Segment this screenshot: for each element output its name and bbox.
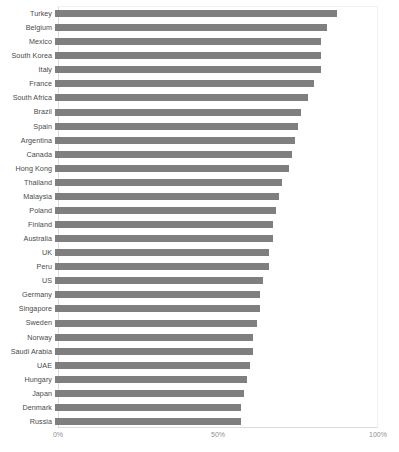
bar-track — [55, 90, 375, 105]
bar-category-label: Spain — [0, 123, 55, 130]
bar-track — [55, 330, 375, 345]
bar — [55, 291, 260, 298]
bar — [55, 418, 241, 425]
bar-category-label: Turkey — [0, 10, 55, 17]
bar-category-label: Norway — [0, 334, 55, 341]
bar-row: South Africa — [0, 90, 399, 105]
bar — [55, 334, 253, 341]
bar-category-label: Belgium — [0, 24, 55, 31]
bar — [55, 165, 289, 172]
bar-row: Norway — [0, 330, 399, 345]
bar-rows: TurkeyBelgiumMexicoSouth KoreaItalyFranc… — [0, 6, 399, 428]
bar — [55, 277, 263, 284]
bar — [55, 207, 276, 214]
bar-row: Australia — [0, 231, 399, 246]
bar-track — [55, 76, 375, 91]
x-axis-tick-label: 100% — [369, 431, 387, 438]
bar-track — [55, 203, 375, 218]
bar — [55, 137, 295, 144]
bar — [55, 305, 260, 312]
bar-row: Poland — [0, 203, 399, 218]
bar-row: UAE — [0, 358, 399, 373]
bar — [55, 179, 282, 186]
bar-row: France — [0, 76, 399, 91]
bar-row: Canada — [0, 147, 399, 162]
bar-track — [55, 231, 375, 246]
bar-row: Belgium — [0, 20, 399, 35]
bar-category-label: Denmark — [0, 404, 55, 411]
bar-row: Turkey — [0, 6, 399, 21]
bar-row: Argentina — [0, 133, 399, 148]
x-axis-tick-label: 0% — [53, 431, 63, 438]
bar — [55, 263, 269, 270]
bar-category-label: Japan — [0, 390, 55, 397]
bar-category-label: Saudi Arabia — [0, 348, 55, 355]
bar-track — [55, 414, 375, 429]
bar-category-label: UK — [0, 249, 55, 256]
bar-row: Spain — [0, 119, 399, 134]
bar — [55, 80, 314, 87]
bar-track — [55, 287, 375, 302]
bar-row: Brazil — [0, 104, 399, 119]
bar-category-label: Canada — [0, 151, 55, 158]
bar-track — [55, 400, 375, 415]
bar-row: Peru — [0, 259, 399, 274]
bar — [55, 404, 241, 411]
bar-track — [55, 189, 375, 204]
bar-track — [55, 147, 375, 162]
x-axis: 0%50%100% — [58, 428, 378, 448]
bar-category-label: Poland — [0, 207, 55, 214]
bar-category-label: Italy — [0, 66, 55, 73]
bar-row: Germany — [0, 287, 399, 302]
bar-category-label: France — [0, 80, 55, 87]
bar-category-label: Australia — [0, 235, 55, 242]
bar-row: Denmark — [0, 400, 399, 415]
bar — [55, 235, 273, 242]
bar-category-label: Singapore — [0, 305, 55, 312]
bar-row: Finland — [0, 217, 399, 232]
bar-track — [55, 344, 375, 359]
bar-row: Malaysia — [0, 189, 399, 204]
bar-track — [55, 245, 375, 260]
bar-track — [55, 217, 375, 232]
bar-track — [55, 175, 375, 190]
bar — [55, 376, 247, 383]
bar-track — [55, 301, 375, 316]
bar — [55, 320, 257, 327]
bar-category-label: Malaysia — [0, 193, 55, 200]
bar-track — [55, 259, 375, 274]
bar-category-label: Mexico — [0, 38, 55, 45]
bar — [55, 10, 337, 17]
bar-category-label: UAE — [0, 362, 55, 369]
bar-category-label: Germany — [0, 291, 55, 298]
bar-category-label: Sweden — [0, 319, 55, 326]
bar-row: South Korea — [0, 48, 399, 63]
bar-track — [55, 372, 375, 387]
bar — [55, 38, 321, 45]
bar-category-label: South Africa — [0, 94, 55, 101]
bar — [55, 348, 253, 355]
bar — [55, 109, 301, 116]
bar — [55, 24, 327, 31]
bar-category-label: Thailand — [0, 179, 55, 186]
bar-track — [55, 358, 375, 373]
bar — [55, 66, 321, 73]
bar — [55, 362, 250, 369]
bar-category-label: Russia — [0, 418, 55, 425]
bar-row: Mexico — [0, 34, 399, 49]
bar — [55, 193, 279, 200]
bar-row: Japan — [0, 386, 399, 401]
bar-track — [55, 133, 375, 148]
bar-track — [55, 161, 375, 176]
bar-row: Hungary — [0, 372, 399, 387]
bar-track — [55, 34, 375, 49]
bar-row: Saudi Arabia — [0, 344, 399, 359]
bar — [55, 52, 321, 59]
bar-track — [55, 315, 375, 330]
bar-category-label: Peru — [0, 263, 55, 270]
bar-category-label: Argentina — [0, 137, 55, 144]
bar-category-label: Brazil — [0, 108, 55, 115]
bar-row: Russia — [0, 414, 399, 429]
bar-category-label: US — [0, 277, 55, 284]
bar-row: Hong Kong — [0, 161, 399, 176]
